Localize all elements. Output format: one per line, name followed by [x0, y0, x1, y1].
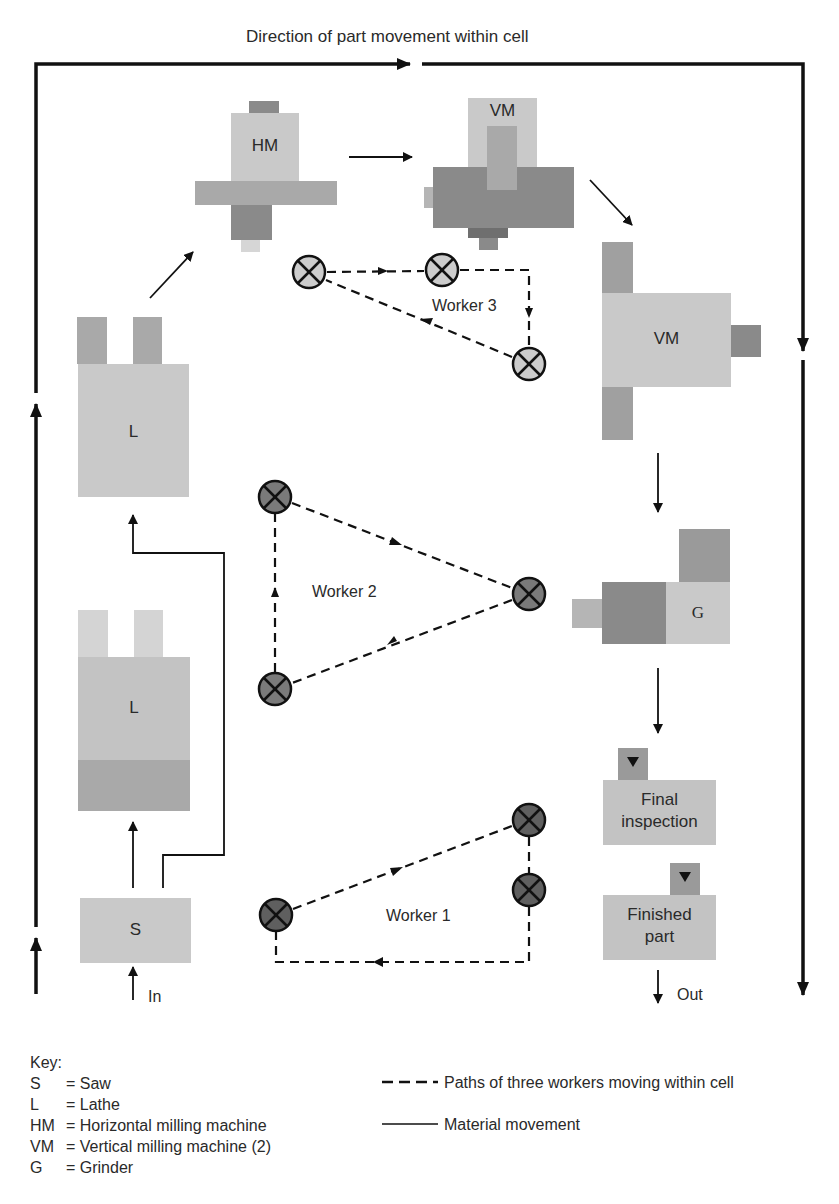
final-inspection-label-line2: inspection — [603, 812, 716, 832]
vm-right-label: VM — [602, 329, 731, 349]
worker-station-icon — [513, 874, 545, 906]
grinder-label: G — [666, 603, 730, 623]
worker-2-label: Worker 2 — [312, 583, 377, 601]
out-label: Out — [677, 986, 703, 1004]
cell-layout-diagram — [0, 0, 839, 1204]
legend-solid-text: Material movement — [444, 1114, 580, 1135]
vm-top-label: VM — [468, 101, 537, 121]
worker-3-direction-arrow — [378, 267, 388, 275]
key-symbol: G — [30, 1157, 66, 1178]
worker-station-icon — [259, 673, 291, 705]
in-label: In — [148, 988, 161, 1006]
hm-label: HM — [231, 136, 299, 156]
key-item: VM= Vertical milling machine (2) — [30, 1136, 271, 1157]
key-symbol: HM — [30, 1115, 66, 1136]
key-text: = Horizontal milling machine — [66, 1115, 267, 1136]
worker-2-direction-arrow — [389, 537, 402, 545]
key-symbol: S — [30, 1073, 66, 1094]
worker-station-icon — [293, 256, 325, 288]
saw-label: S — [80, 920, 191, 940]
worker-2-stations — [259, 481, 545, 705]
worker-1-label: Worker 1 — [386, 907, 451, 925]
grinder — [572, 529, 730, 644]
key-symbol: L — [30, 1094, 66, 1115]
worker-station-icon — [513, 578, 545, 610]
worker-station-icon — [259, 481, 291, 513]
worker-3-path — [326, 270, 529, 357]
key-text: = Lathe — [66, 1094, 120, 1115]
worker-1-direction-arrow — [373, 957, 383, 967]
key-item: S= Saw — [30, 1073, 271, 1094]
key-heading: Key: — [30, 1052, 271, 1073]
worker-1-path — [276, 826, 529, 962]
worker-station-icon — [513, 348, 545, 380]
key: Key: S= Saw L= Lathe HM= Horizontal mill… — [30, 1052, 271, 1178]
key-item: L= Lathe — [30, 1094, 271, 1115]
diagram-title: Direction of part movement within cell — [246, 27, 529, 47]
key-text: = Grinder — [66, 1157, 133, 1178]
lathe-upper — [77, 317, 189, 497]
worker-3-direction-arrow — [420, 318, 433, 325]
worker-1-direction-arrow — [390, 867, 403, 876]
key-item: HM= Horizontal milling machine — [30, 1115, 271, 1136]
legend-dashed-text: Paths of three workers moving within cel… — [444, 1072, 734, 1093]
material-movement — [133, 157, 658, 1003]
worker-station-icon — [513, 804, 545, 836]
worker-3-direction-arrow — [525, 308, 533, 318]
key-text: = Vertical milling machine (2) — [66, 1136, 271, 1157]
lathe-upper-label: L — [78, 422, 189, 442]
lathe-lower-label: L — [78, 698, 190, 718]
horizontal-milling-machine — [195, 101, 337, 252]
key-text: = Saw — [66, 1073, 111, 1094]
worker-2-path — [275, 503, 512, 683]
worker-station-icon — [426, 254, 458, 286]
worker-3-label: Worker 3 — [432, 297, 497, 315]
key-item: G= Grinder — [30, 1157, 271, 1178]
worker-2-direction-arrow — [271, 587, 279, 597]
final-inspection-label-line1: Final — [603, 790, 716, 810]
worker-station-icon — [260, 899, 292, 931]
finished-part-label-line1: Finished — [603, 905, 716, 925]
legend-line-samples — [382, 1082, 438, 1124]
finished-part-label-line2: part — [603, 927, 716, 947]
key-symbol: VM — [30, 1136, 66, 1157]
